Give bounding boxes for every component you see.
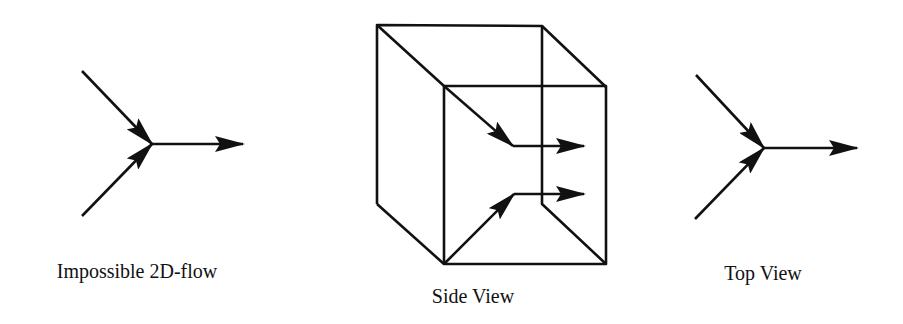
- side-view-label: Side View: [432, 285, 515, 307]
- lower-inflow-arrow: [82, 144, 152, 216]
- cube-front-face: [444, 86, 606, 264]
- impossible-2d-flow-label: Impossible 2D-flow: [57, 260, 218, 283]
- top-view-label: Top View: [724, 262, 802, 285]
- side-view-cube: [377, 25, 606, 264]
- cube-top-right-edge: [542, 26, 606, 87]
- upper-inflow-arrow: [82, 71, 152, 144]
- top-upper-inflow-arrow: [696, 75, 764, 148]
- cube-top-left-edge: [377, 25, 444, 86]
- top-lower-inflow-arrow: [695, 148, 764, 219]
- flow-diagram: Impossible 2D-flow Side View Top View: [0, 0, 903, 324]
- upper-flow-diagonal: [444, 86, 513, 146]
- cube-back-edges: [377, 25, 606, 264]
- lower-flow-diagonal: [444, 194, 514, 264]
- impossible-2d-flow-panel: [82, 71, 243, 216]
- cube-bottom-left-edge: [377, 204, 444, 264]
- top-view-panel: [695, 75, 857, 219]
